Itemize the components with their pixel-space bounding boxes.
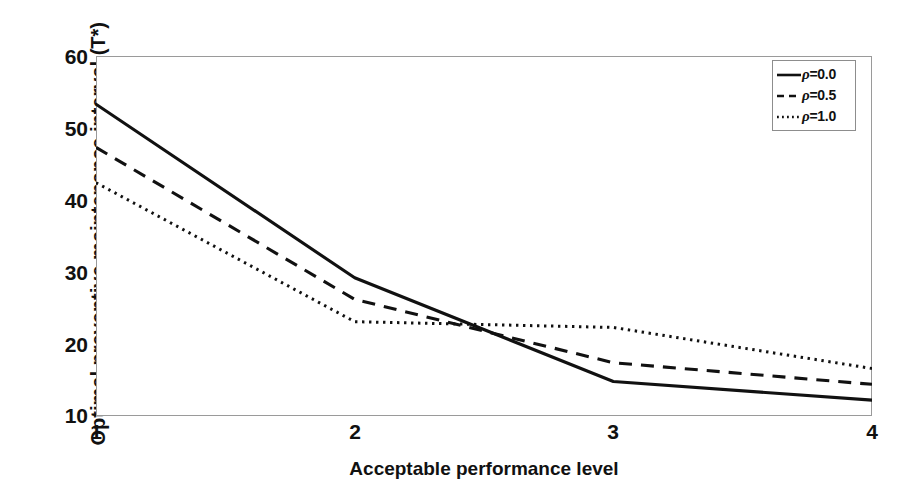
legend-item-rho-0.5: ρ=0.5 [776,85,853,106]
series-line-rho-1.0 [96,183,872,369]
y-tick-label-40: 40 [40,189,88,213]
y-tick-label-20: 20 [40,333,88,357]
chart-figure: Optimal preventive maintenance interval … [0,0,919,499]
y-tick-label-30: 30 [40,261,88,285]
legend-value-2: =1.0 [809,108,835,124]
legend-item-rho-1.0: ρ=1.0 [776,106,853,127]
legend-label-rho-0.5: ρ=0.5 [802,87,836,104]
y-tick-label-50: 50 [40,117,88,141]
x-tick-label-4: 4 [852,420,892,444]
x-tick-label-3: 3 [593,420,633,444]
legend-label-rho-1.0: ρ=1.0 [802,108,836,125]
x-tick-label-2: 2 [335,420,375,444]
x-axis-title: Acceptable performance level [96,458,872,480]
legend: ρ=0.0 ρ=0.5 ρ=1.0 [772,60,856,131]
legend-sample-dotted-icon [776,111,802,123]
legend-label-rho-0.0: ρ=0.0 [802,66,836,83]
x-tick-label-1: 1 [76,420,116,444]
legend-value-1: =0.5 [809,87,835,103]
legend-item-rho-0.0: ρ=0.0 [776,64,853,85]
legend-sample-dashed-icon [776,90,802,102]
legend-sample-solid-icon [776,69,802,81]
y-tick-label-60: 60 [40,45,88,69]
series-line-rho-0.0 [96,104,872,400]
plot-lines [96,56,872,416]
legend-value-0: =0.0 [809,66,835,82]
